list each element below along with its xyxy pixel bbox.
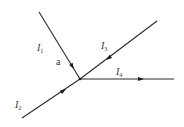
- label-l2: I2: [14, 99, 21, 111]
- junction-node: [79, 78, 82, 81]
- label-l3: I3: [100, 40, 107, 52]
- label-l4: I4: [115, 66, 122, 78]
- label-l1: I1: [36, 42, 43, 54]
- wire-l2: [22, 79, 80, 118]
- junction-diagram: I1 a I3 I4 I2: [0, 0, 184, 127]
- wire-l1: [39, 12, 80, 79]
- label-junction-a: a: [56, 56, 61, 67]
- arrow-l4-icon: [138, 77, 144, 81]
